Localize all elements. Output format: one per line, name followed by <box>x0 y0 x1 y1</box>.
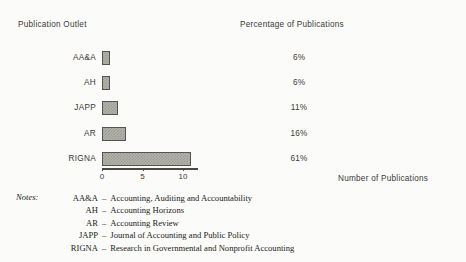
percentage-value: 6% <box>270 73 328 93</box>
x-axis-tick <box>102 168 103 171</box>
note-item: AA&A–Accounting, Auditing and Accountabi… <box>50 192 456 204</box>
bar <box>102 76 110 90</box>
percentage-value: 16% <box>270 124 328 144</box>
x-axis-tick <box>183 168 184 171</box>
note-abbreviation: RIGNA <box>50 242 102 254</box>
bar-row: RIGNA61% <box>0 149 466 169</box>
notes-list: AA&A–Accounting, Auditing and Accountabi… <box>50 192 456 254</box>
percentage-value: 11% <box>270 98 328 118</box>
bar <box>102 127 126 141</box>
note-abbreviation: AA&A <box>50 192 102 204</box>
note-expansion: Research in Governmental and Nonprofit A… <box>110 242 294 254</box>
x-axis-title: Number of Publications <box>338 174 428 183</box>
note-abbreviation: AR <box>50 217 102 229</box>
note-abbreviation: AH <box>50 204 102 216</box>
note-item: AH–Accounting Horizons <box>50 204 456 216</box>
notes-block: Notes: AA&A–Accounting, Auditing and Acc… <box>16 192 456 254</box>
category-label: AH <box>0 73 96 93</box>
note-dash: – <box>102 192 110 204</box>
note-dash: – <box>102 229 110 241</box>
bar-row: AR16% <box>0 124 466 144</box>
bar <box>102 101 118 115</box>
category-label: AR <box>0 124 96 144</box>
note-dash: – <box>102 242 110 254</box>
bar-chart-figure: Publication Outlet Percentage of Publica… <box>0 0 466 262</box>
category-label: RIGNA <box>0 149 96 169</box>
bar <box>102 51 110 65</box>
note-item: RIGNA–Research in Governmental and Nonpr… <box>50 242 456 254</box>
note-item: AR–Accounting Review <box>50 217 456 229</box>
note-expansion: Accounting, Auditing and Accountability <box>110 192 252 204</box>
percentage-value: 61% <box>270 149 328 169</box>
note-dash: – <box>102 217 110 229</box>
percentage-value: 6% <box>270 48 328 68</box>
bar-row: AH6% <box>0 73 466 93</box>
note-expansion: Accounting Horizons <box>110 204 184 216</box>
bar-row: JAPP11% <box>0 98 466 118</box>
category-label: JAPP <box>0 98 96 118</box>
bar-row: AA&A6% <box>0 48 466 68</box>
x-axis-tick-label: 10 <box>179 172 188 181</box>
note-abbreviation: JAPP <box>50 229 102 241</box>
x-axis-tick-label: 0 <box>100 172 104 181</box>
notes-label: Notes: <box>16 192 38 202</box>
category-label: AA&A <box>0 48 96 68</box>
note-item: JAPP–Journal of Accounting and Public Po… <box>50 229 456 241</box>
bar <box>102 152 191 166</box>
note-expansion: Journal of Accounting and Public Policy <box>110 229 249 241</box>
x-axis-tick-label: 5 <box>140 172 144 181</box>
x-axis-tick <box>143 168 144 171</box>
note-dash: – <box>102 204 110 216</box>
note-expansion: Accounting Review <box>110 217 179 229</box>
